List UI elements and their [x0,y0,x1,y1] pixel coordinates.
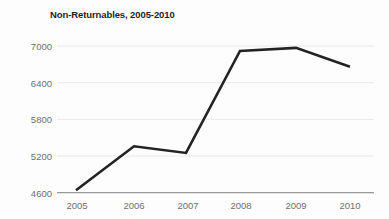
y-tick-label: 5800 [8,114,52,125]
x-tick-label: 2009 [285,200,306,211]
line-chart: Non-Returnables, 2005-2010 4600520058006… [0,0,389,219]
x-axis: 200520062007200820092010 [0,200,389,214]
x-tick-label: 2005 [66,200,87,211]
y-axis: 46005200580064007000 [8,0,52,219]
gridlines [57,46,374,193]
x-tick-label: 2010 [339,200,360,211]
x-tick-label: 2008 [230,200,251,211]
y-tick-label: 6400 [8,77,52,88]
x-tick-label: 2006 [123,200,144,211]
x-tick-label: 2007 [177,200,198,211]
y-tick-label: 5200 [8,151,52,162]
chart-plot-area [0,0,389,219]
y-tick-label: 4600 [8,187,52,198]
y-tick-label: 7000 [8,41,52,52]
